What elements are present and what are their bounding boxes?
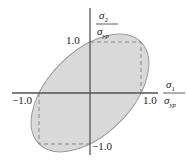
tick-x-neg: −1.0 <box>12 94 32 106</box>
svg-text:σyp: σyp <box>164 94 177 109</box>
svg-text:σ2: σ2 <box>99 9 108 24</box>
x-axis-label: σ1 σyp <box>163 78 185 109</box>
tick-y-neg: −1.0 <box>92 140 112 152</box>
tick-x-pos: 1.0 <box>143 94 157 106</box>
tick-y-pos: 1.0 <box>66 34 80 46</box>
svg-text:σ1: σ1 <box>166 78 175 93</box>
diagram-canvas: 1.0 −1.0 1.0 −1.0 σ2 σyp σ1 σyp <box>0 0 186 161</box>
yield-criterion-diagram: 1.0 −1.0 1.0 −1.0 σ2 σyp σ1 σyp <box>0 0 186 161</box>
